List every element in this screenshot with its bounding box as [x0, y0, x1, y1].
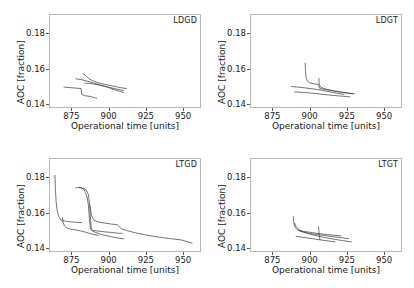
y-tick-label: 0.18	[227, 28, 246, 38]
panel-ldgd: LDGD AOC [fraction] Operational time [un…	[49, 14, 201, 108]
data-line-ldgd-0	[64, 87, 97, 98]
y-tick-label: 0.16	[26, 208, 45, 218]
x-tick-label: 950	[376, 111, 392, 121]
y-tick-label: 0.18	[26, 28, 45, 38]
y-tick-label: 0.16	[227, 208, 246, 218]
y-tickmark	[247, 69, 250, 70]
panel-label-ltgt: LTGT	[378, 160, 398, 169]
data-line-ltgt-0	[293, 217, 348, 239]
plot-lines-ltgd	[49, 158, 201, 252]
y-tick-label: 0.14	[26, 99, 45, 109]
x-tick-label: 900	[301, 111, 317, 121]
y-tick-label: 0.18	[227, 172, 246, 182]
data-line-ldgt-2	[305, 63, 354, 94]
y-axis-label-ldgt: AOC [fraction]	[217, 40, 227, 104]
plot-lines-ldgd	[49, 14, 201, 108]
x-tick-label: 925	[138, 111, 154, 121]
data-line-ltgt-3	[296, 236, 335, 242]
y-tick-label: 0.14	[227, 243, 246, 253]
y-tick-label: 0.14	[227, 99, 246, 109]
panel-label-ldgd: LDGD	[173, 16, 197, 25]
panel-ltgt: LTGT AOC [fraction] Operational time [un…	[250, 158, 402, 252]
y-tickmark	[46, 69, 49, 70]
data-line-ltgd-1	[62, 218, 98, 236]
plot-lines-ldgt	[250, 14, 402, 108]
data-line-ldgd-1	[76, 79, 124, 91]
panel-label-ltgd: LTGD	[176, 160, 197, 169]
y-tick-label: 0.18	[26, 172, 45, 182]
figure-canvas: LDGD AOC [fraction] Operational time [un…	[0, 0, 414, 288]
x-tick-label: 900	[301, 255, 317, 265]
y-tickmark	[46, 248, 49, 249]
x-tick-label: 875	[264, 255, 280, 265]
x-tick-label: 925	[138, 255, 154, 265]
panel-ltgd: LTGD AOC [fraction] Operational time [un…	[49, 158, 201, 252]
y-tickmark	[46, 104, 49, 105]
data-line-ltgd-0	[55, 175, 82, 222]
y-tickmark	[247, 213, 250, 214]
y-tick-label: 0.14	[26, 243, 45, 253]
x-axis-label-ldgt: Operational time [units]	[272, 121, 380, 131]
y-tick-label: 0.16	[227, 64, 246, 74]
y-tickmark	[247, 104, 250, 105]
x-axis-label-ltgd: Operational time [units]	[71, 265, 179, 275]
x-tick-label: 950	[175, 111, 191, 121]
x-tick-label: 875	[264, 111, 280, 121]
x-tick-label: 950	[175, 255, 191, 265]
y-tickmark	[46, 177, 49, 178]
plot-lines-ltgt	[250, 158, 402, 252]
y-axis-label-ltgt: AOC [fraction]	[217, 184, 227, 248]
x-tick-label: 875	[63, 111, 79, 121]
y-axis-label-ldgd: AOC [fraction]	[16, 40, 26, 104]
y-tickmark	[247, 248, 250, 249]
y-tickmark	[46, 33, 49, 34]
y-tickmark	[247, 177, 250, 178]
y-tickmark	[46, 213, 49, 214]
y-tick-label: 0.16	[26, 64, 45, 74]
panel-label-ldgt: LDGT	[376, 16, 398, 25]
x-tick-label: 900	[100, 111, 116, 121]
data-line-ltgt-1	[295, 223, 352, 242]
data-line-ldgt-3	[319, 78, 353, 94]
y-axis-label-ltgd: AOC [fraction]	[16, 184, 26, 248]
data-line-ltgd-3	[79, 187, 124, 239]
panel-ldgt: LDGT AOC [fraction] Operational time [un…	[250, 14, 402, 108]
x-axis-label-ldgd: Operational time [units]	[71, 121, 179, 131]
x-tick-label: 875	[63, 255, 79, 265]
data-line-ltgd-4	[90, 205, 192, 243]
x-tick-label: 900	[100, 255, 116, 265]
data-line-ldgt-0	[292, 87, 344, 95]
x-axis-label-ltgt: Operational time [units]	[272, 265, 380, 275]
x-tick-label: 950	[376, 255, 392, 265]
x-tick-label: 925	[339, 111, 355, 121]
data-line-ldgt-1	[295, 92, 350, 97]
y-tickmark	[247, 33, 250, 34]
x-tick-label: 925	[339, 255, 355, 265]
